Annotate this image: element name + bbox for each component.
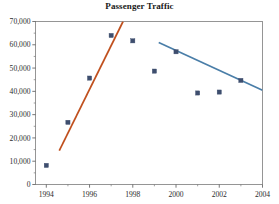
y-axis-tick-label: 20,000	[10, 134, 31, 143]
y-axis-tick-label: 0	[27, 180, 31, 189]
data-point-marker	[174, 50, 178, 54]
data-point-marker	[239, 78, 243, 82]
x-axis-tick-label: 1996	[82, 190, 97, 199]
chart-plot-area: 010,00020,00030,00040,00050,00060,00070,…	[0, 0, 279, 204]
x-axis-tick-label: 2000	[168, 190, 183, 199]
plot-frame	[36, 22, 263, 185]
data-point-marker	[152, 69, 156, 73]
y-axis-tick-label: 30,000	[10, 110, 31, 119]
data-point-marker	[109, 33, 113, 37]
data-point-marker	[217, 90, 221, 94]
x-axis-tick-label: 2004	[255, 190, 270, 199]
y-axis-tick-label: 40,000	[10, 87, 31, 96]
data-point-marker	[66, 120, 70, 124]
x-axis-tick-label: 2002	[212, 190, 227, 199]
y-axis-tick-label: 10,000	[10, 157, 31, 166]
x-axis-tick-label: 1998	[125, 190, 140, 199]
data-point-marker	[131, 39, 135, 43]
data-point-marker	[44, 163, 48, 167]
y-axis-tick-label: 50,000	[10, 64, 31, 73]
data-point-marker	[87, 76, 91, 80]
y-axis-tick-label: 60,000	[10, 40, 31, 49]
chart-container: Passenger Traffic 010,00020,00030,00040,…	[0, 0, 279, 204]
y-axis-tick-label: 70,000	[10, 17, 31, 26]
x-axis-tick-label: 1994	[39, 190, 54, 199]
data-point-marker	[196, 91, 200, 95]
